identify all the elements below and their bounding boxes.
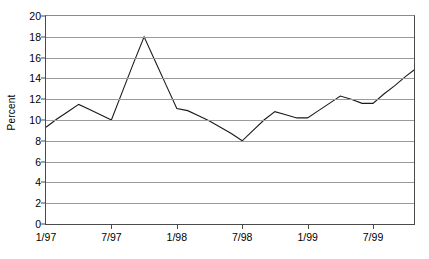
gridline [46, 37, 414, 38]
y-axis-tick-label: 14 [29, 72, 41, 84]
y-axis-tick-mark [41, 140, 45, 141]
gridline [46, 99, 414, 100]
x-axis-tick-label: 1/99 [297, 231, 317, 243]
x-axis-tick-mark [242, 225, 243, 229]
x-axis-tick-mark [373, 225, 374, 229]
x-axis-tick-label: 1/97 [36, 231, 56, 243]
y-axis-tick-mark [41, 36, 45, 37]
gridline [46, 141, 414, 142]
y-axis-tick-mark [41, 78, 45, 79]
gridline [46, 162, 414, 163]
y-axis-tick-mark [41, 161, 45, 162]
gridline [46, 120, 414, 121]
x-axis-tick-mark [177, 225, 178, 229]
x-axis-tick-label: 7/99 [363, 231, 383, 243]
x-axis-tick-mark [308, 225, 309, 229]
y-axis-tick-label: 18 [29, 31, 41, 43]
y-axis-tick-mark [41, 57, 45, 58]
y-axis-tick-mark [41, 224, 45, 225]
y-axis-tick-mark [41, 120, 45, 121]
y-axis-tick-label: 16 [29, 52, 41, 64]
y-axis-tick-mark [41, 99, 45, 100]
x-axis-tick-mark [111, 225, 112, 229]
x-axis-tick-label: 1/98 [167, 231, 187, 243]
y-axis-tick-mark [41, 182, 45, 183]
y-axis-tick-label: 20 [29, 10, 41, 22]
y-axis-tick-mark [41, 203, 45, 204]
line-chart: Percent 02468101214161820 1/977/971/987/… [0, 0, 429, 259]
gridline [46, 78, 414, 79]
y-axis-tick-label: 12 [29, 93, 41, 105]
gridline [46, 58, 414, 59]
x-axis-tick-label: 7/97 [101, 231, 121, 243]
gridline [46, 182, 414, 183]
gridline [46, 203, 414, 204]
y-axis-tick-labels: 02468101214161820 [16, 0, 43, 259]
plot-area [45, 15, 415, 225]
y-axis-tick-mark [41, 16, 45, 17]
x-axis-tick-label: 7/98 [232, 231, 252, 243]
y-axis-tick-label: 10 [29, 114, 41, 126]
